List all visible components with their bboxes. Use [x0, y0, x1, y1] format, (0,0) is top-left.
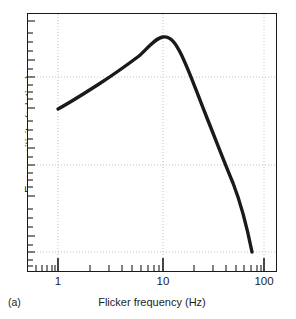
- vertical-gridlines: [58, 14, 264, 271]
- panel-caption: (a): [8, 296, 21, 308]
- y-axis-ticks: [28, 21, 35, 266]
- plot-area: [27, 13, 277, 272]
- x-axis-ticks: [36, 258, 264, 271]
- x-tick-label-10: 10: [157, 275, 170, 287]
- x-tick-label-1: 1: [55, 275, 61, 287]
- sensitivity-curve: [58, 37, 252, 252]
- figure-panel: Eye sensitivity (relative): [0, 0, 296, 319]
- x-axis-label: Flicker frequency (Hz): [27, 296, 277, 308]
- x-tick-label-100: 100: [254, 275, 273, 287]
